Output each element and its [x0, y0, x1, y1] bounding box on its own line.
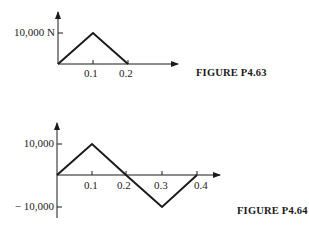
- x-tick-label: 0.2: [117, 179, 131, 191]
- figure-caption: FIGURE P4.64: [237, 205, 308, 216]
- figure-caption: FIGURE P4.63: [196, 67, 267, 78]
- x-tick-label: 0.3: [154, 179, 168, 191]
- x-tick-label: 0.4: [194, 179, 208, 191]
- figure-p4-64-plot: [57, 123, 220, 218]
- y-tick-label: 10,000: [24, 137, 54, 149]
- figure-p4-63-plot: [58, 12, 178, 64]
- y-tick-label: − 10,000: [15, 200, 54, 212]
- x-tick-label: 0.1: [84, 67, 98, 79]
- force-curve: [58, 33, 128, 64]
- x-tick-label: 0.2: [119, 67, 133, 79]
- y-tick-label: 10,000 N: [14, 26, 55, 38]
- x-tick-label: 0.1: [84, 179, 98, 191]
